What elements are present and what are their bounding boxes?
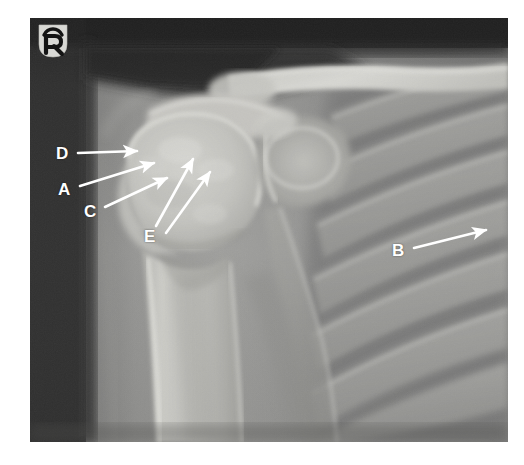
annotation-label-c: C (84, 203, 97, 220)
right-side-marker-icon (38, 24, 68, 58)
annotation-label-b: B (392, 242, 405, 259)
xray-anatomy-render (30, 18, 508, 442)
annotation-label-e: E (144, 228, 156, 245)
annotation-label-d: D (56, 145, 69, 162)
screenshot-canvas: D A C B E (0, 0, 524, 465)
annotation-label-a: A (58, 181, 71, 198)
xray-radiograph-image (30, 18, 508, 442)
